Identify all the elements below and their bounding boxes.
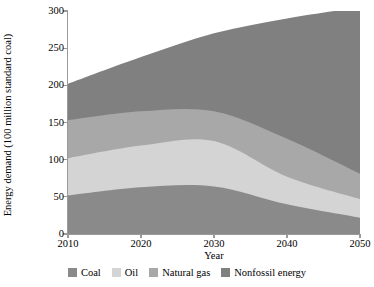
y-tick-label: 250 [24, 43, 64, 53]
x-tick-label: 2050 [338, 238, 374, 249]
legend-item-nonfossil-energy[interactable]: Nonfossil energy [221, 267, 306, 278]
legend-swatch-icon [68, 268, 77, 277]
legend-item-oil[interactable]: Oil [112, 267, 138, 278]
y-tick-label: 150 [24, 118, 64, 128]
y-tick-label: 100 [24, 155, 64, 165]
legend-item-natural-gas[interactable]: Natural gas [149, 267, 210, 278]
y-tick-label: 50 [24, 192, 64, 202]
legend-label: Coal [81, 267, 101, 278]
legend-swatch-icon [149, 268, 158, 277]
legend-swatch-icon [221, 268, 230, 277]
x-axis-title: Year [68, 250, 360, 261]
area-series-group [68, 11, 360, 234]
legend-label: Natural gas [162, 267, 210, 278]
plot-area [68, 11, 360, 234]
legend-item-coal[interactable]: Coal [68, 267, 101, 278]
legend-label: Nonfossil energy [234, 267, 306, 278]
y-tick-label: 300 [24, 6, 64, 16]
chart-legend: CoalOilNatural gasNonfossil energy [0, 267, 374, 278]
x-tick-label: 2030 [192, 238, 236, 249]
x-tick-label: 2010 [46, 238, 90, 249]
y-tick-label: 200 [24, 80, 64, 90]
y-axis-title: Energy demand (100 million standard coal… [1, 5, 15, 245]
x-tick-label: 2020 [119, 238, 163, 249]
stacked-area-chart: Energy demand (100 million standard coal… [0, 0, 374, 287]
legend-label: Oil [125, 267, 138, 278]
x-tick-label: 2040 [265, 238, 309, 249]
legend-swatch-icon [112, 268, 121, 277]
